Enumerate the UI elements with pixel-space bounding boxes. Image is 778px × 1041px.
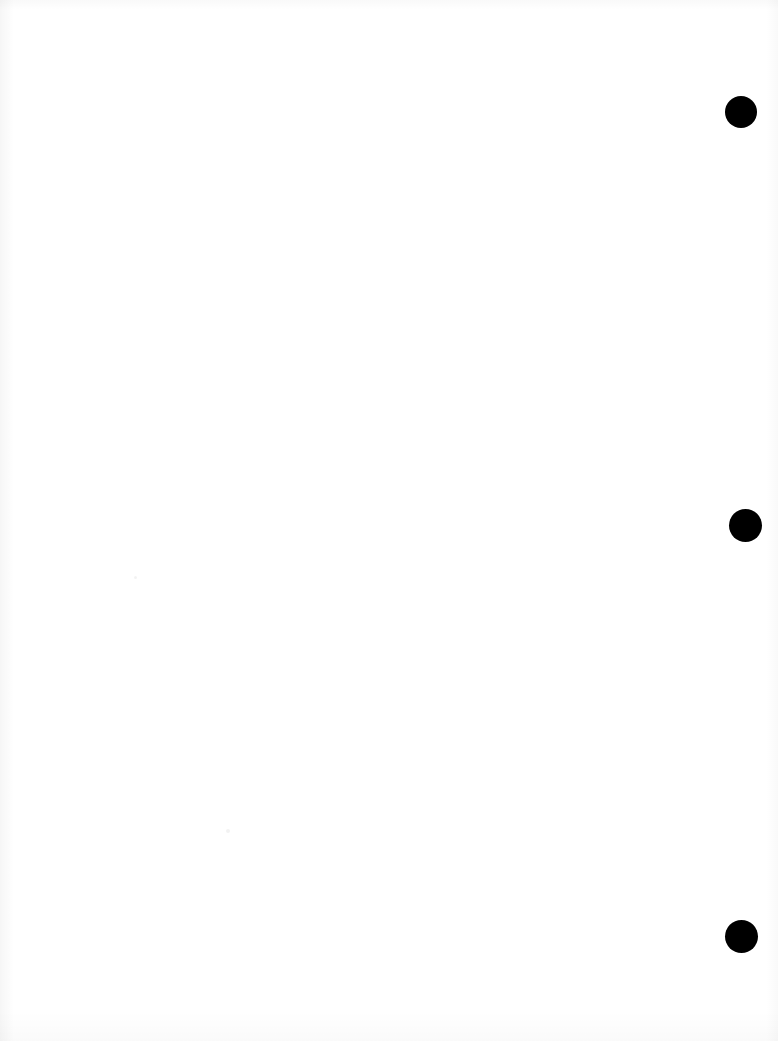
margin-dot-top bbox=[725, 96, 757, 128]
margin-dot-bottom bbox=[725, 920, 758, 953]
margin-dot-middle bbox=[729, 509, 762, 542]
page-body-empty-area bbox=[0, 0, 778, 1041]
scan-speck-lower bbox=[226, 829, 230, 833]
scan-speck-upper bbox=[134, 576, 137, 579]
scanned-page bbox=[0, 0, 778, 1041]
